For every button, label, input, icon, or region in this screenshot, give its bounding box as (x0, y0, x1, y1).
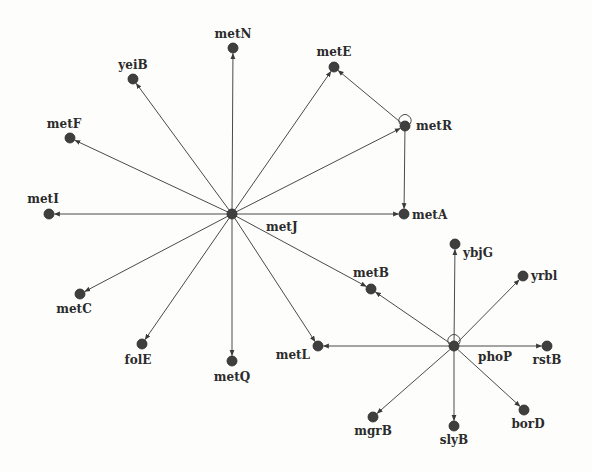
node-metF (65, 133, 75, 143)
network-diagram: metJmetNyeiBmetEmetFmetRmetImetAmetCfolE… (0, 0, 592, 472)
self-loop-layer (399, 115, 460, 344)
node-metL (313, 341, 323, 351)
node-phoP (449, 341, 459, 351)
edge-metJ-to-folE (145, 216, 231, 340)
node-label-phoP: phoP (478, 350, 512, 364)
node-label-metJ: metJ (266, 220, 298, 234)
node-metC (75, 289, 85, 299)
edge-phoP-to-metB (376, 292, 453, 345)
node-label-mgrB: mgrB (354, 424, 392, 438)
edge-metJ-to-metC (85, 215, 230, 292)
node-label-yrbl: yrbl (530, 269, 558, 283)
node-label-metR: metR (416, 119, 453, 133)
edge-metJ-to-metB (234, 215, 366, 286)
node-rstB (542, 341, 552, 351)
node-label-metL: metL (276, 348, 311, 362)
node-layer (44, 43, 552, 431)
edge-metR-to-metA (404, 128, 405, 209)
node-metQ (227, 356, 237, 366)
node-ybjG (450, 239, 460, 249)
edge-metJ-to-metL (233, 216, 315, 342)
edge-phoP-to-yrbl (455, 280, 519, 345)
node-label-yeiB: yeiB (117, 58, 147, 72)
edge-metJ-to-metN (232, 53, 233, 212)
edge-metJ-to-yeiB (136, 83, 231, 212)
node-yeiB (128, 74, 138, 84)
node-metE (329, 62, 339, 72)
edge-phoP-to-ybjG (454, 249, 455, 344)
node-label-metB: metB (353, 266, 389, 280)
node-label-borD: borD (511, 417, 544, 431)
node-label-ybjG: ybjG (462, 246, 493, 260)
node-label-metA: metA (412, 208, 448, 222)
label-layer: metJmetNyeiBmetEmetFmetRmetImetAmetCfolE… (27, 27, 561, 447)
network-graph-canvas: metJmetNyeiBmetEmetFmetRmetImetAmetCfolE… (0, 0, 592, 472)
edge-metJ-to-metE (233, 72, 331, 213)
node-metN (228, 43, 238, 53)
node-label-rstB: rstB (533, 353, 562, 367)
node-label-metE: metE (316, 45, 351, 59)
node-mgrB (368, 412, 378, 422)
node-label-metI: metI (27, 192, 59, 206)
node-label-folE: folE (125, 353, 152, 367)
node-metJ (227, 209, 237, 219)
node-borD (519, 405, 529, 415)
edge-metR-to-metE (338, 71, 403, 125)
node-metB (366, 284, 376, 294)
node-label-metF: metF (47, 117, 82, 131)
node-slyB (449, 421, 459, 431)
node-label-metQ: metQ (214, 370, 250, 384)
node-metA (399, 209, 409, 219)
node-metI (44, 209, 54, 219)
node-label-metC: metC (56, 302, 91, 316)
node-label-metN: metN (215, 27, 252, 41)
node-yrbl (518, 271, 528, 281)
edge-phoP-to-mgrB (377, 347, 452, 413)
node-folE (137, 339, 147, 349)
edge-metJ-to-metR (234, 128, 400, 213)
node-metR (400, 121, 410, 131)
edge-metJ-to-metF (75, 140, 230, 213)
node-label-slyB: slyB (440, 433, 468, 447)
